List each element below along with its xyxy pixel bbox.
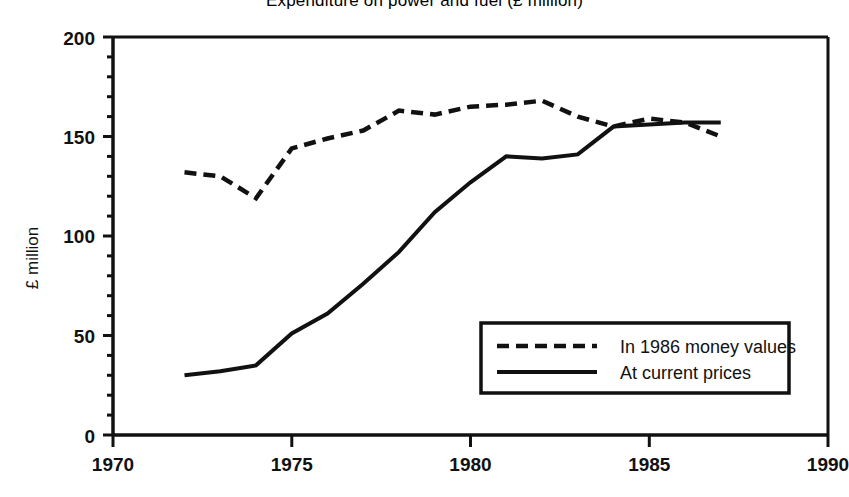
legend-label-1: At current prices	[620, 363, 751, 383]
series-line-in-1986-money-values	[185, 101, 721, 199]
legend-label-0: In 1986 money values	[620, 337, 796, 357]
chart-canvas: 200 150 100 50 0 1970 1975 1980 1985 199…	[0, 0, 849, 497]
x-tick-label: 1970	[92, 454, 134, 475]
x-axis-tick-labels: 1970 1975 1980 1985 1990	[92, 454, 849, 475]
y-axis-label: £ million	[23, 227, 42, 289]
x-tick-label: 1980	[449, 454, 491, 475]
y-tick-label: 50	[74, 326, 95, 347]
y-tick-label: 150	[63, 127, 95, 148]
x-axis-ticks	[113, 435, 828, 447]
y-axis-tick-labels: 200 150 100 50 0	[63, 28, 95, 447]
x-tick-label: 1975	[271, 454, 314, 475]
x-tick-label: 1990	[807, 454, 849, 475]
chart-container: Expenditure on power and fuel (£ million…	[0, 0, 849, 497]
y-tick-label: 100	[63, 226, 95, 247]
chart-legend[interactable]: In 1986 money values At current prices	[481, 323, 796, 393]
x-tick-label: 1985	[628, 454, 671, 475]
y-tick-label: 200	[63, 28, 95, 49]
y-tick-label: 0	[84, 426, 95, 447]
